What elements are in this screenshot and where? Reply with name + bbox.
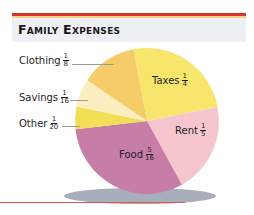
label-savings-name: Savings: [19, 92, 58, 103]
label-other: Other 120: [19, 116, 58, 131]
label-food-name: Food: [119, 149, 143, 160]
fraction-rent: 15: [200, 123, 206, 138]
label-food: Food 516: [119, 147, 154, 162]
clothing-leader: [72, 64, 114, 65]
pie-chart: [0, 0, 254, 215]
fraction-savings: 116: [60, 90, 69, 105]
other-leader: [62, 126, 80, 127]
denominator: 16: [145, 155, 154, 162]
fraction-food: 516: [145, 147, 154, 162]
denominator: 20: [49, 124, 58, 131]
bottom-rule: [0, 202, 185, 203]
denominator: 16: [60, 98, 69, 105]
denominator: 4: [183, 81, 187, 88]
label-rent: Rent 15: [175, 123, 206, 138]
label-clothing: Clothing 18: [19, 53, 69, 68]
label-taxes: Taxes 14: [152, 73, 188, 88]
savings-leader: [70, 100, 88, 101]
denominator: 5: [201, 131, 205, 138]
fraction-clothing: 18: [63, 53, 69, 68]
denominator: 8: [64, 61, 68, 68]
label-rent-name: Rent: [175, 125, 198, 136]
fraction-taxes: 14: [182, 73, 188, 88]
label-savings: Savings 116: [19, 90, 69, 105]
label-taxes-name: Taxes: [152, 75, 180, 86]
label-other-name: Other: [19, 118, 47, 129]
label-clothing-name: Clothing: [19, 55, 61, 66]
fraction-other: 120: [49, 116, 58, 131]
